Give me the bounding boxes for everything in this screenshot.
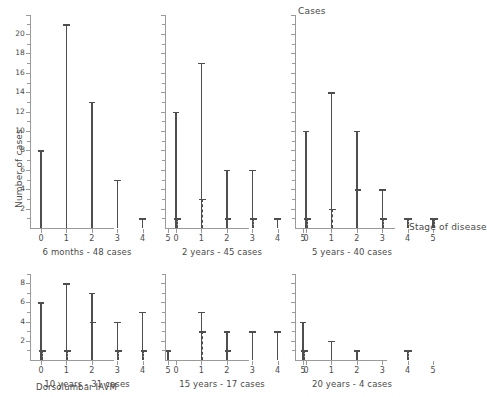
panel-15-years-y-tick <box>162 350 165 351</box>
panel-2-years-stem-dashed-2 <box>227 218 228 228</box>
panel-5-years-x-tick <box>382 229 383 233</box>
panel-10-years-x-tick <box>41 361 42 365</box>
panel-6-months-y-tick <box>26 112 30 113</box>
panel-10-years-stem-dashed-4 <box>143 350 144 360</box>
panel-6-months-y-tick <box>26 34 30 35</box>
panel-2-years-y-tick <box>162 218 165 219</box>
panel-2-years-y-tick <box>161 34 165 35</box>
panel-10-years-x-tick <box>66 361 67 365</box>
panel-6-months-stem-solid-1 <box>66 24 67 228</box>
panel-6-months-stem-cap-solid-1 <box>63 24 70 25</box>
figure-caption: Dorsolumbar IAVM <box>36 382 117 392</box>
panel-5-years-x-tick-label: 5 <box>423 234 443 243</box>
panel-2-years-y-tick <box>161 112 165 113</box>
panel-2-years-stem-dashed-0 <box>177 218 178 228</box>
panel-6-months-stem-cap-solid-3 <box>114 180 121 181</box>
panel-2-years-caption: 2 years - 45 cases <box>162 247 282 257</box>
panel-2-years-stem-solid-4 <box>277 218 278 228</box>
panel-6-months-y-tick <box>27 199 30 200</box>
panel-6-months-y-tick <box>26 15 30 16</box>
panel-5-years-caption: 5 years - 40 cases <box>292 247 412 257</box>
panel-2-years-y-tick <box>162 141 165 142</box>
panel-6-months-y-tick-label: 18 <box>0 48 25 57</box>
panel-10-years-y-tick <box>26 341 30 342</box>
panel-6-months-y-tick <box>27 160 30 161</box>
panel-10-years-stem-dashed-2 <box>92 322 93 360</box>
panel-5-years-stem-cap-dashed-1 <box>329 209 336 210</box>
panel-6-months-stem-solid-0 <box>40 150 41 228</box>
panel-10-years-stem-cap-solid-2 <box>89 293 96 294</box>
panel-20-years-y-tick <box>291 283 295 284</box>
panel-6-months-y-tick <box>26 209 30 210</box>
panel-10-years-stem-solid-5 <box>167 350 168 360</box>
panel-5-years-y-tick <box>291 189 295 190</box>
panel-6-months-y-tick <box>27 141 30 142</box>
panel-2-years-y-tick <box>162 83 165 84</box>
panel-5-years-stem-cap-solid-2 <box>354 131 361 132</box>
panel-6-months-y-tick <box>27 218 30 219</box>
panel-2-years-y-tick <box>162 160 165 161</box>
panel-10-years-stem-cap-dashed-4 <box>141 350 148 351</box>
panel-6-months-stem-solid-2 <box>91 102 92 228</box>
panel-15-years-stem-solid-3 <box>252 331 253 360</box>
panel-6-months-y-tick <box>26 170 30 171</box>
panel-15-years-x-tick <box>176 361 177 365</box>
panel-5-years-y-tick <box>291 34 295 35</box>
panel-5-years-stem-cap-dashed-4 <box>406 218 413 219</box>
panel-15-years-y-tick <box>162 274 165 275</box>
panel-6-months-stem-solid-4 <box>142 218 143 228</box>
panel-15-years-y-tick <box>162 293 165 294</box>
panel-15-years-y-tick <box>162 331 165 332</box>
panel-6-months-y-tick <box>27 180 30 181</box>
panel-2-years-x-tick-label: 2 <box>217 234 237 243</box>
panel-20-years-x-tick <box>306 361 307 365</box>
panel-6-months-x-tick <box>41 229 42 233</box>
panel-2-years-y-tick <box>161 189 165 190</box>
panel-6-months-x-tick <box>168 229 169 233</box>
panel-2-years-y-tick <box>162 180 165 181</box>
panel-5-years-y-tick <box>292 218 295 219</box>
panel-10-years-x-tick <box>143 361 144 365</box>
panel-20-years-x-tick-label: 2 <box>347 366 367 375</box>
panel-5-years-y-tick <box>292 199 295 200</box>
panel-10-years-y-tick <box>27 350 30 351</box>
panel-10-years-y-tick-label: 8 <box>0 278 25 287</box>
panel-15-years-y-tick <box>161 283 165 284</box>
panel-2-years-stem-cap-solid-4 <box>274 218 281 219</box>
panel-15-years-x-tick <box>278 361 279 365</box>
panel-15-years-x-tick <box>201 361 202 365</box>
panel-15-years-stem-cap-solid-5 <box>300 322 307 323</box>
panel-10-years-x-tick-label: 0 <box>31 366 51 375</box>
panel-5-years-x-tick <box>357 229 358 233</box>
panel-5-years-y-tick <box>292 121 295 122</box>
cases-label: Cases <box>298 6 326 16</box>
panel-5-years-y-tick <box>291 131 295 132</box>
panel-20-years-x-tick-label: 0 <box>296 366 316 375</box>
panel-15-years-y-axis <box>165 274 166 360</box>
panel-10-years-x-axis <box>30 360 114 361</box>
panel-20-years-y-tick <box>291 302 295 303</box>
panel-6-months-y-tick-label: 12 <box>0 107 25 116</box>
panel-15-years-stem-solid-4 <box>277 331 278 360</box>
panel-2-years-x-tick <box>252 229 253 233</box>
panel-5-years-x-tick <box>306 229 307 233</box>
panel-15-years-stem-cap-solid-3 <box>249 331 256 332</box>
panel-20-years-x-tick-label: 5 <box>423 366 443 375</box>
panel-6-months-y-tick <box>26 131 30 132</box>
panel-6-months-y-tick-label: 14 <box>0 87 25 96</box>
panel-2-years-x-tick <box>176 229 177 233</box>
panel-6-months-y-tick <box>26 189 30 190</box>
panel-15-years-x-tick-label: 4 <box>268 366 288 375</box>
panel-15-years-x-tick-label: 3 <box>242 366 262 375</box>
panel-10-years-x-tick <box>92 361 93 365</box>
panel-20-years-caption: 20 years - 4 cases <box>292 379 412 389</box>
panel-2-years-stem-cap-solid-3 <box>249 170 256 171</box>
panel-5-years-y-tick <box>292 141 295 142</box>
panel-6-months-x-tick-label: 4 <box>133 234 153 243</box>
panel-20-years-y-tick <box>292 312 295 313</box>
panel-5-years-x-tick <box>331 229 332 233</box>
panel-15-years-x-tick-label: 2 <box>217 366 237 375</box>
panel-5-years-stem-cap-solid-3 <box>379 189 386 190</box>
panel-2-years-stem-cap-solid-2 <box>224 170 231 171</box>
panel-10-years-x-tick-label: 4 <box>133 366 153 375</box>
